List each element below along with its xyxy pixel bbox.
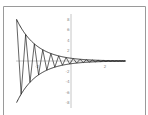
y-tick-label: -4 <box>66 79 70 84</box>
y-tick-label: 6 <box>67 27 70 32</box>
y-tick-label: 8 <box>67 17 70 22</box>
y-tick-label: -2 <box>66 69 70 74</box>
y-tick-label: -6 <box>66 90 70 95</box>
y-tick-label: 2 <box>67 48 70 53</box>
x-tick-label: 2 <box>104 64 107 69</box>
damped-oscillation-chart: 8642-2-4-6-8 -22 <box>0 0 148 115</box>
y-tick-label: 4 <box>67 38 70 43</box>
y-tick-label: -8 <box>66 100 70 105</box>
